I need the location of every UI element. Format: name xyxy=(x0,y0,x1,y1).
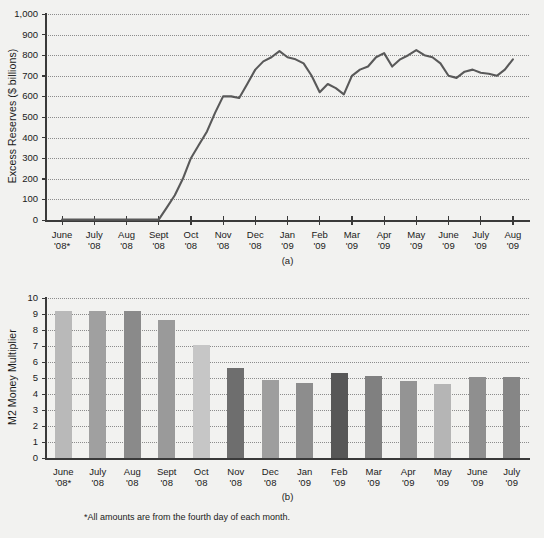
panel-b-y-tick-mark xyxy=(42,378,47,379)
panel-b-y-tick-label: 7 xyxy=(0,341,38,350)
panel-b-bar xyxy=(400,381,417,458)
panel-b-gridline xyxy=(46,394,529,395)
panel-a-y-tick-label: 800 xyxy=(0,50,38,59)
panel-b-y-tick-mark xyxy=(42,362,47,363)
panel-b-bar xyxy=(503,377,520,458)
panel-b-gridline xyxy=(46,298,529,299)
panel-b-y-tick-mark xyxy=(42,426,47,427)
panel-b-y-tick-mark xyxy=(42,330,47,331)
panel-a-y-tick-label: 500 xyxy=(0,112,38,121)
panel-b-bar xyxy=(158,320,175,458)
panel-a-plot-area xyxy=(46,14,529,220)
panel-b-y-tick-label: 3 xyxy=(0,405,38,414)
panel-b-bar xyxy=(89,311,106,458)
figure-footnote: *All amounts are from the fourth day of … xyxy=(84,512,290,522)
panel-b-bar xyxy=(262,380,279,458)
panel-a-y-tick-label: 0 xyxy=(0,215,38,224)
panel-b-y-tick-mark xyxy=(42,442,47,443)
panel-b-bar xyxy=(331,373,348,458)
panel-b-y-tick-label: 0 xyxy=(0,453,38,462)
panel-b-gridline xyxy=(46,314,529,315)
panel-a-x-tick-label: Aug'09 xyxy=(491,229,535,251)
panel-a-y-tick-label: 300 xyxy=(0,153,38,162)
panel-b-bar xyxy=(365,376,382,458)
panel-b-gridline xyxy=(46,426,529,427)
panel-b-bar-chart: M2 Money Multiplier 012345678910 June'08… xyxy=(0,272,544,538)
panel-b-y-tick-mark xyxy=(42,394,47,395)
panel-a-y-tick-label: 600 xyxy=(0,91,38,100)
panel-b-x-tick-label: July'09 xyxy=(490,466,534,488)
panel-b-y-tick-mark xyxy=(42,458,47,459)
panel-a-y-tick-label: 1,000 xyxy=(0,9,38,18)
panel-b-plot-area xyxy=(46,298,529,458)
panel-b-gridline xyxy=(46,330,529,331)
panel-a-y-tick-label: 400 xyxy=(0,133,38,142)
figure-root: Excess Reserves ($ billions) 01002003004… xyxy=(0,0,544,538)
panel-b-y-tick-label: 9 xyxy=(0,309,38,318)
panel-a-line-chart: Excess Reserves ($ billions) 01002003004… xyxy=(0,0,544,272)
panel-a-caption: (a) xyxy=(46,255,529,266)
panel-b-y-tick-mark xyxy=(42,314,47,315)
panel-b-gridline xyxy=(46,410,529,411)
panel-b-bar xyxy=(227,368,244,458)
panel-b-x-axis-line xyxy=(45,458,530,460)
panel-b-gridline xyxy=(46,346,529,347)
panel-b-y-tick-label: 8 xyxy=(0,325,38,334)
panel-b-bar xyxy=(193,345,210,458)
panel-a-y-tick-label: 900 xyxy=(0,30,38,39)
panel-b-bar xyxy=(469,377,486,458)
panel-b-gridline xyxy=(46,378,529,379)
panel-b-bar xyxy=(296,383,313,458)
panel-b-bar xyxy=(434,384,451,458)
panel-b-caption: (b) xyxy=(46,491,529,502)
panel-b-y-tick-label: 4 xyxy=(0,389,38,398)
panel-b-y-tick-label: 1 xyxy=(0,437,38,446)
panel-a-data-line xyxy=(46,14,529,220)
panel-a-y-tick-label: 100 xyxy=(0,194,38,203)
panel-a-y-tick-label: 700 xyxy=(0,71,38,80)
panel-b-y-tick-label: 2 xyxy=(0,421,38,430)
panel-a-y-tick-label: 200 xyxy=(0,174,38,183)
panel-b-y-tick-label: 5 xyxy=(0,373,38,382)
panel-b-gridline xyxy=(46,362,529,363)
panel-b-y-tick-label: 10 xyxy=(0,293,38,302)
panel-b-y-tick-mark xyxy=(42,346,47,347)
panel-b-bar xyxy=(55,311,72,458)
panel-b-y-tick-mark xyxy=(42,410,47,411)
panel-b-bar xyxy=(124,311,141,458)
panel-b-y-tick-mark xyxy=(42,298,47,299)
panel-b-y-tick-label: 6 xyxy=(0,357,38,366)
panel-b-gridline xyxy=(46,442,529,443)
